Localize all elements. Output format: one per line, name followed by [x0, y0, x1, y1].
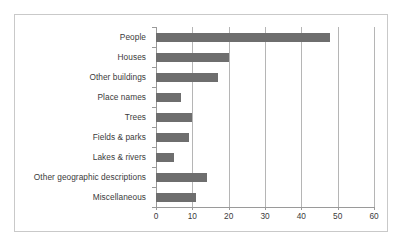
chart-frame: People Houses Other buildings Place name… [14, 14, 388, 232]
value-tick-label-20: 20 [224, 212, 233, 220]
category-label-other-geographic-descriptions: Other geographic descriptions [15, 167, 151, 187]
bar-fields-and-parks [156, 133, 189, 142]
value-tick-label-30: 30 [260, 212, 269, 220]
value-axis-line [156, 207, 374, 208]
category-label-trees: Trees [15, 107, 151, 127]
bar-miscellaneous [156, 193, 196, 202]
category-label-people: People [15, 27, 151, 47]
bar-row-houses [156, 47, 374, 67]
bar-row-lakes-and-rivers [156, 147, 374, 167]
gridline-60 [374, 27, 375, 207]
chart-plot-wrapper: People Houses Other buildings Place name… [15, 15, 387, 231]
bar-row-fields-and-parks [156, 127, 374, 147]
bar-row-miscellaneous [156, 187, 374, 207]
category-label-lakes-and-rivers: Lakes & rivers [15, 147, 151, 167]
category-label-houses: Houses [15, 47, 151, 67]
value-tick-30 [265, 207, 266, 210]
bar-other-buildings [156, 73, 218, 82]
value-tick-50 [338, 207, 339, 210]
bar-lakes-and-rivers [156, 153, 174, 162]
bar-other-geographic-descriptions [156, 173, 207, 182]
value-tick-10 [192, 207, 193, 210]
plot-area [156, 27, 374, 207]
value-tick-label-60: 60 [369, 212, 378, 220]
value-tick-0 [156, 207, 157, 210]
category-label-fields-and-parks: Fields & parks [15, 127, 151, 147]
value-tick-label-0: 0 [154, 212, 159, 220]
value-tick-label-50: 50 [333, 212, 342, 220]
value-tick-label-40: 40 [297, 212, 306, 220]
value-axis-tick-labels: 0102030405060 [156, 212, 374, 226]
bar-people [156, 33, 330, 42]
bar-row-people [156, 27, 374, 47]
value-tick-60 [374, 207, 375, 210]
bar-row-other-buildings [156, 67, 374, 87]
bar-series [156, 27, 374, 207]
bar-houses [156, 53, 229, 62]
bar-row-place-names [156, 87, 374, 107]
bar-trees [156, 113, 192, 122]
bar-row-other-geographic-descriptions [156, 167, 374, 187]
bar-place-names [156, 93, 181, 102]
category-label-place-names: Place names [15, 87, 151, 107]
category-label-other-buildings: Other buildings [15, 67, 151, 87]
value-tick-label-10: 10 [188, 212, 197, 220]
value-tick-40 [301, 207, 302, 210]
category-axis-labels: People Houses Other buildings Place name… [15, 27, 151, 207]
value-tick-20 [229, 207, 230, 210]
bar-row-trees [156, 107, 374, 127]
category-label-miscellaneous: Miscellaneous [15, 187, 151, 207]
